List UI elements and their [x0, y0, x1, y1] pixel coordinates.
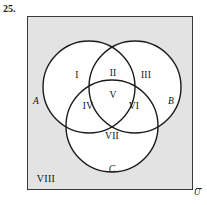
- problem-number: 25.: [3, 3, 16, 14]
- circle-fills: [43, 41, 181, 172]
- venn-circles: [27, 16, 193, 190]
- venn-diagram-figure: 25. I II III IV V VI VII VIII A B C U: [0, 0, 207, 205]
- universe-label-tick: [196, 188, 202, 189]
